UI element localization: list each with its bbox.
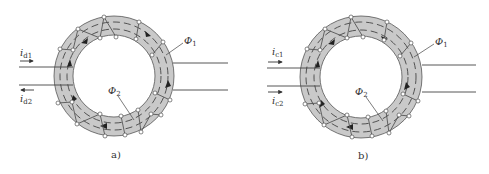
diagram-canvas: id1 id2 Φ1 Φ2 a) <box>0 0 489 174</box>
flux2-label-a: Φ2 <box>108 85 121 98</box>
flux1-label-b: Φ1 <box>435 36 448 49</box>
caption-a: a) <box>111 149 121 160</box>
flux1-leader-a <box>166 43 183 55</box>
current-label-c2: ic2 <box>272 95 284 108</box>
current-label-d2: id2 <box>20 93 32 106</box>
toroid-figure-b: ic1 ic2 Φ1 Φ2 b) <box>267 15 476 161</box>
flux2-label-b: Φ2 <box>355 86 368 99</box>
toroid-figure-a: id1 id2 Φ1 Φ2 a) <box>19 15 228 160</box>
current-label-d1: id1 <box>20 47 32 60</box>
caption-b: b) <box>358 150 368 161</box>
flux1-label-a: Φ1 <box>184 35 197 48</box>
flux1-leader-b <box>414 44 434 57</box>
current-label-c1: ic1 <box>272 46 284 59</box>
